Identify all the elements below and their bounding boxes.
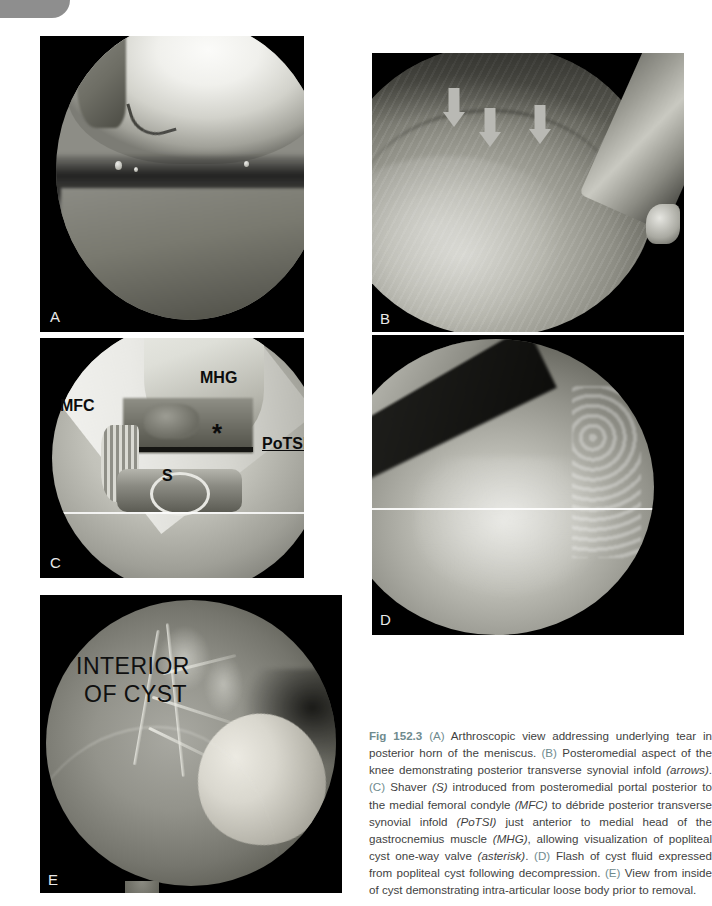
- panel-letter-e: E: [48, 872, 59, 887]
- label-interior-line1: INTERIOR: [76, 652, 190, 680]
- label-interior-line2: OF CYST: [84, 680, 190, 708]
- panel-top-rule: [40, 590, 342, 595]
- scan-line: [60, 512, 304, 514]
- panel-letter-a: A: [50, 309, 61, 324]
- caption-panel-ref: (C): [369, 780, 385, 793]
- caption-term-italic: (PoTSI): [457, 815, 497, 828]
- arrow-head-icon: [529, 129, 551, 144]
- figure-panel-a: A: [40, 36, 304, 332]
- caption-panel-ref: (B): [542, 746, 557, 759]
- synovial-granules: [572, 386, 642, 558]
- arrow-shaft: [535, 105, 546, 131]
- arrow-head-icon: [479, 132, 501, 147]
- fluid-bubble-icon: [244, 161, 249, 167]
- label-mfc: MFC: [60, 398, 95, 414]
- panel-letter-c: C: [50, 555, 61, 570]
- arrow-shaft: [485, 108, 496, 134]
- figure-panel-d: D: [372, 335, 684, 635]
- figure-panel-e: INTERIOR OF CYST E: [40, 590, 342, 893]
- caption-term-italic: (S): [432, 780, 447, 793]
- caption-term-italic: (MHG): [493, 832, 528, 845]
- arrow-shaft: [449, 88, 460, 114]
- caption-text: Shaver: [385, 780, 432, 793]
- shaver-tip-window: [150, 472, 210, 516]
- fluid-bubble-icon: [134, 167, 138, 172]
- figure-panel-b: B: [372, 53, 684, 332]
- arthroscopic-view-c: [52, 338, 304, 578]
- figure-panel-c: MFC MHG * PoTSI S C: [40, 338, 304, 578]
- caption-panel-ref: (E): [605, 866, 620, 879]
- fluid-bubble-icon: [115, 161, 122, 170]
- arthroscopic-view-a: [56, 36, 304, 320]
- posterior-horn-meniscus: [61, 188, 304, 320]
- caption-panel-ref: (D): [534, 849, 550, 862]
- scan-line: [372, 508, 654, 510]
- panel-letter-d: D: [380, 612, 391, 627]
- caption-panel-ref: (A): [429, 729, 444, 742]
- caption-term-italic: (arrows): [666, 763, 709, 776]
- superior-shadow: [372, 53, 656, 121]
- meniscal-tear-flap: [77, 36, 125, 128]
- cyst-one-way-valve: [144, 404, 198, 439]
- instrument-tip: [646, 204, 680, 244]
- label-asterisk: *: [212, 420, 222, 446]
- label-interior-of-cyst: INTERIOR OF CYST: [76, 652, 190, 708]
- scope-notch: [125, 881, 159, 893]
- arthroscopic-view-d: [372, 339, 654, 635]
- panel-letter-b: B: [380, 311, 391, 326]
- arrow-head-icon: [443, 112, 465, 127]
- caption-figure-number: Fig 152.3: [369, 729, 422, 742]
- page-edge-tab: [0, 0, 70, 18]
- caption-term-italic: (asterisk): [478, 849, 526, 862]
- caption-text: .: [525, 849, 534, 862]
- label-mhg: MHG: [200, 370, 237, 386]
- scope-notch: [40, 188, 57, 218]
- arthroscopic-view-e: [46, 600, 336, 886]
- caption-term-italic: (MFC): [515, 798, 548, 811]
- figure-caption: Fig 152.3 (A) Arthroscopic view addressi…: [369, 727, 712, 899]
- label-shaver-s: S: [162, 468, 173, 484]
- label-potsi: PoTSI: [262, 436, 304, 452]
